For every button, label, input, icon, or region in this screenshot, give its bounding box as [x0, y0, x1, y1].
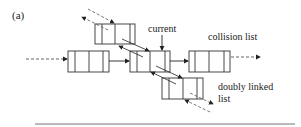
label-doubly-linked-line2: list — [218, 93, 230, 104]
label-current: current — [148, 23, 177, 34]
arrow-dl-top-in — [88, 9, 114, 23]
arrow-dl-current-to-top — [119, 46, 143, 57]
hash-collision-diagram: (a) — [0, 0, 301, 127]
node-left — [68, 51, 109, 72]
label-doubly-linked-line1: doubly linked — [218, 81, 273, 92]
arrow-dl-bottom-in — [185, 100, 210, 112]
node-collision — [189, 51, 230, 72]
arrow-dl-bottom-out — [190, 93, 213, 104]
label-collision-list: collision list — [208, 31, 257, 42]
node-top — [95, 24, 135, 44]
panel-label: (a) — [12, 9, 25, 22]
